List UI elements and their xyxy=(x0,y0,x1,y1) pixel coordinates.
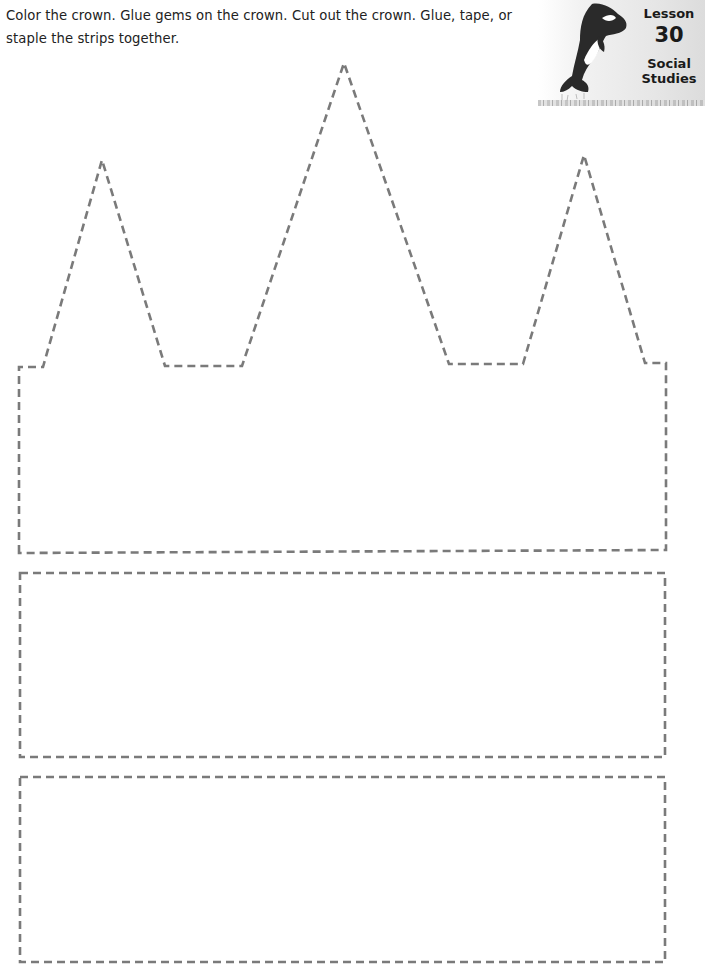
strip-1-outline[interactable] xyxy=(20,573,665,757)
crown-outline[interactable] xyxy=(19,63,666,553)
strip-2-outline[interactable] xyxy=(20,777,665,962)
cut-lines xyxy=(0,0,705,969)
